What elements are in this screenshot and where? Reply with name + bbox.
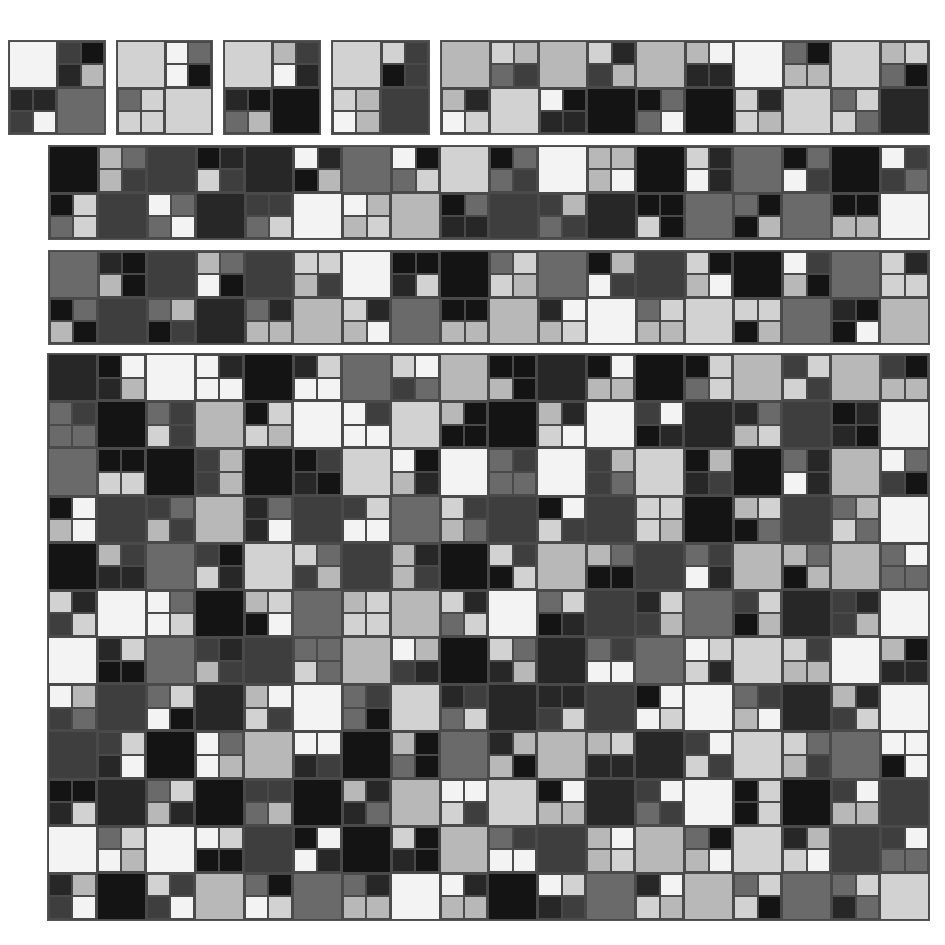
small-square: [709, 472, 732, 495]
small-square: [538, 802, 561, 825]
small-square: [170, 780, 193, 803]
big-square: [97, 496, 146, 543]
small-square: [513, 449, 536, 472]
small-square: [784, 64, 807, 86]
small-square: [50, 216, 73, 238]
small-square: [148, 216, 171, 238]
big-square: [293, 779, 342, 826]
small-square: [415, 566, 438, 589]
small-square: [758, 402, 781, 425]
small-square: [121, 472, 144, 495]
small-squares: [733, 873, 782, 920]
small-square: [611, 661, 634, 684]
small-square: [121, 827, 144, 850]
small-square: [660, 591, 683, 614]
small-squares: [635, 684, 684, 731]
small-square: [832, 591, 855, 614]
small-square: [49, 613, 72, 636]
small-squares: [117, 88, 165, 135]
small-square: [832, 874, 855, 897]
big-square: [537, 731, 586, 778]
small-squares: [831, 401, 880, 448]
small-square: [392, 566, 415, 589]
big-square: [293, 684, 342, 731]
small-squares: [733, 496, 782, 543]
big-square: [684, 590, 733, 637]
small-square: [856, 497, 879, 520]
small-square: [405, 64, 428, 86]
small-square: [807, 169, 830, 191]
small-square: [783, 638, 806, 661]
small-squares: [586, 826, 635, 873]
small-squares: [684, 543, 733, 590]
big-square: [391, 590, 440, 637]
big-square: [685, 88, 734, 135]
small-squares: [488, 826, 537, 873]
small-square: [489, 355, 512, 378]
small-square: [660, 896, 683, 919]
small-square: [758, 613, 781, 636]
small-square: [294, 544, 317, 567]
small-square: [709, 827, 732, 850]
small-square: [98, 638, 121, 661]
small-square: [121, 566, 144, 589]
big-square: [391, 684, 440, 731]
small-square: [587, 378, 610, 401]
big-square: [636, 146, 685, 193]
small-square: [587, 849, 610, 872]
small-square: [122, 169, 145, 191]
small-squares: [244, 496, 293, 543]
small-square: [196, 449, 219, 472]
small-square: [118, 111, 141, 133]
small-square: [685, 732, 708, 755]
small-square: [807, 638, 830, 661]
small-square: [856, 780, 879, 803]
small-square: [832, 613, 855, 636]
small-square: [905, 64, 928, 86]
small-squares: [733, 193, 782, 240]
big-square: [635, 826, 684, 873]
small-squares: [488, 543, 537, 590]
big-square: [636, 251, 685, 298]
small-squares: [244, 590, 293, 637]
small-square: [636, 425, 659, 448]
small-square: [343, 708, 366, 731]
small-squares: [195, 354, 244, 401]
small-squares: [441, 88, 490, 135]
small-square: [367, 321, 390, 343]
small-square: [245, 780, 268, 803]
small-squares: [293, 731, 342, 778]
small-square: [122, 274, 145, 296]
small-squares: [782, 637, 831, 684]
small-square: [587, 638, 610, 661]
small-square: [245, 896, 268, 919]
small-square: [366, 425, 389, 448]
small-square: [294, 355, 317, 378]
big-square: [342, 637, 391, 684]
big-square: [146, 543, 195, 590]
small-squares: [539, 88, 588, 135]
small-square: [807, 378, 830, 401]
big-square: [196, 298, 245, 345]
small-square: [588, 274, 611, 296]
small-squares: [342, 590, 391, 637]
small-square: [367, 194, 390, 216]
small-square: [170, 519, 193, 542]
small-square: [416, 169, 439, 191]
small-square: [881, 355, 904, 378]
small-square: [147, 874, 170, 897]
small-square: [832, 780, 855, 803]
small-square: [758, 874, 781, 897]
big-square: [880, 298, 929, 345]
small-square: [709, 449, 732, 472]
big-square: [733, 146, 782, 193]
small-square: [72, 802, 95, 825]
small-square: [832, 519, 855, 542]
small-square: [294, 169, 317, 191]
small-squares: [48, 684, 97, 731]
small-square: [268, 896, 291, 919]
small-square: [98, 355, 121, 378]
small-square: [513, 147, 536, 169]
small-square: [637, 321, 660, 343]
small-square: [49, 497, 72, 520]
